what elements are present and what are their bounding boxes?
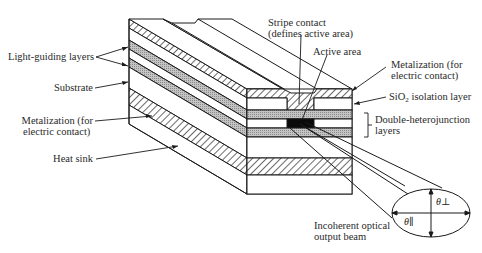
- active-area-label: Active area: [313, 46, 361, 57]
- front-sio2-left: [247, 98, 287, 110]
- metalization-left-label-line2: electric contact): [23, 126, 90, 137]
- metalization-left-label-line1: Metalization (for: [0, 115, 93, 126]
- theta-parallel-label: θ∥: [404, 216, 414, 227]
- front-heat-sink: [247, 175, 352, 194]
- front-bottom-metal: [247, 158, 352, 175]
- sio2-suffix: isolation layer: [409, 91, 471, 102]
- light-guiding-layers-label: Light-guiding layers: [0, 51, 94, 62]
- theta-perp-label: θ⊥: [436, 196, 450, 207]
- stripe-contact-label-line2: (defines active area): [268, 28, 353, 39]
- double-heterojunction-label-line1: Double-heterojunction: [375, 114, 470, 125]
- front-light-guiding-layer-1: [247, 110, 352, 119]
- front-face: [247, 89, 352, 194]
- front-light-guiding-layer-2: [247, 128, 352, 137]
- sio2-text: SiO: [389, 91, 405, 102]
- substrate-label: Substrate: [0, 82, 93, 93]
- front-sio2-right: [314, 98, 352, 110]
- metalization-right-label-line1: Metalization (for: [391, 59, 462, 70]
- stripe-contact-label-line1: Stripe contact: [268, 17, 326, 28]
- metalization-right-label-line2: electric contact): [391, 70, 458, 81]
- sio2-isolation-layer-label: SiO2 isolation layer: [389, 91, 471, 106]
- active-area: [287, 119, 314, 128]
- double-heterojunction-label-line2: layers: [375, 125, 400, 136]
- output-beam-label-line2: output beam: [314, 231, 366, 242]
- beam-ellipse: [392, 189, 470, 237]
- heat-sink-label: Heat sink: [0, 153, 93, 164]
- output-beam-label-line1: Incoherent optical: [314, 220, 390, 231]
